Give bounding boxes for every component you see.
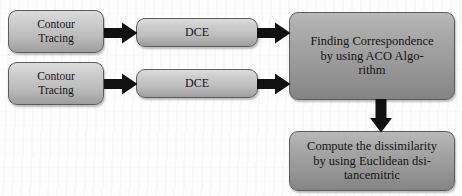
arrow-contour-tracing-2-to-dce-2: [104, 73, 138, 95]
node-contour-tracing-2-label: Contour Tracing: [31, 70, 81, 97]
node-euclidean-dissimilarity-label: Compute the dissimilarity by using Eucli…: [301, 139, 443, 183]
arrow-contour-tracing-1-to-dce-1: [104, 22, 138, 44]
node-contour-tracing-2[interactable]: Contour Tracing: [8, 62, 104, 105]
node-dce-2-label: DCE: [179, 77, 215, 91]
node-dce-1-label: DCE: [179, 26, 215, 40]
node-euclidean-dissimilarity[interactable]: Compute the dissimilarity by using Eucli…: [289, 131, 455, 191]
node-contour-tracing-1-label: Contour Tracing: [31, 18, 81, 45]
node-aco-correspondence-label: Finding Correspondence by using ACO Algo…: [304, 34, 439, 78]
arrow-dce-1-to-aco: [257, 22, 291, 44]
arrow-dce-2-to-aco: [257, 73, 291, 95]
node-dce-2[interactable]: DCE: [136, 69, 258, 98]
node-dce-1[interactable]: DCE: [136, 18, 258, 47]
node-contour-tracing-1[interactable]: Contour Tracing: [8, 10, 104, 53]
node-aco-correspondence[interactable]: Finding Correspondence by using ACO Algo…: [289, 12, 455, 100]
flowchart-diagram: Contour Tracing Contour Tracing DCE DCE …: [0, 0, 462, 196]
arrow-aco-to-euclidean: [369, 99, 393, 133]
